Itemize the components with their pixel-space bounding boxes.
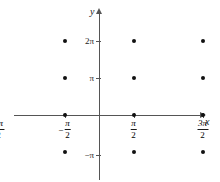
fraction-denominator: 2 — [0, 130, 1, 140]
y-tick-label-pi: π — [89, 74, 94, 83]
lattice-point — [132, 39, 136, 43]
fraction-denominator: 2 — [131, 130, 136, 140]
y-tick-2pi — [96, 41, 101, 42]
y-axis-arrowhead — [96, 8, 102, 14]
x-tick-label: −3π2 — [0, 119, 4, 140]
fraction-numerator: π — [130, 119, 137, 130]
fraction-numerator: 3π — [0, 119, 4, 130]
fraction: 3π2 — [0, 119, 4, 140]
fraction-denominator: 2 — [65, 130, 70, 140]
lattice-point — [201, 39, 205, 43]
fraction: π2 — [130, 119, 137, 140]
lattice-point — [63, 113, 67, 117]
x-axis-line — [14, 115, 201, 116]
fraction-numerator: π — [64, 119, 71, 130]
x-tick-label: π2 — [130, 119, 137, 140]
lattice-point — [132, 113, 136, 117]
lattice-point — [201, 150, 205, 154]
fraction-denominator: 2 — [200, 130, 205, 140]
lattice-point — [63, 76, 67, 80]
x-tick-label: 3π2 — [197, 119, 208, 140]
y-tick-label-neg-pi: −π — [84, 151, 94, 160]
y-tick-label-2pi: 2π — [85, 37, 94, 46]
lattice-point — [132, 76, 136, 80]
fraction: π2 — [64, 119, 71, 140]
lattice-point — [201, 76, 205, 80]
lattice-point — [63, 39, 67, 43]
lattice-point — [132, 150, 136, 154]
lattice-point — [63, 150, 67, 154]
y-tick-pi — [96, 78, 101, 79]
y-tick-neg-pi — [96, 155, 101, 156]
fraction: 3π2 — [197, 119, 208, 140]
fraction-numerator: 3π — [197, 119, 208, 130]
lattice-point — [201, 113, 205, 117]
x-tick-label: −π2 — [58, 119, 71, 140]
y-axis-label: y — [90, 7, 94, 17]
coordinate-plane-figure: x y 2π π −π −3π2−π2π23π25π2 — [0, 0, 220, 182]
